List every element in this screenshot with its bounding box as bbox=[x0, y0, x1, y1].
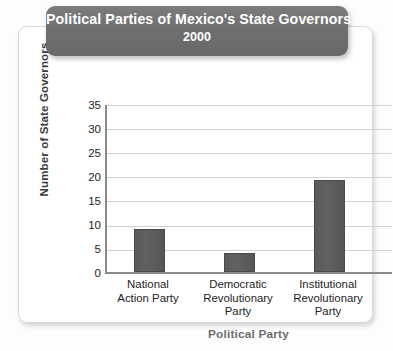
x-tick-line: Institutional bbox=[276, 278, 380, 292]
x-tick-line: Party bbox=[186, 305, 290, 319]
gridline-20 bbox=[107, 177, 392, 178]
x-tick-line: Party bbox=[276, 305, 380, 319]
bar-institutional-revolutionary-party bbox=[314, 180, 345, 272]
chart-card: Number of State Governors 35 30 25 20 15… bbox=[18, 26, 373, 323]
y-tick-20: 20 bbox=[88, 171, 101, 183]
y-axis-title: Number of State Governors bbox=[37, 30, 50, 210]
x-tick-national-action-party: National Action Party bbox=[96, 278, 200, 305]
gridline-10 bbox=[107, 226, 392, 227]
gridline-30 bbox=[107, 129, 392, 130]
y-tick-10: 10 bbox=[88, 219, 101, 231]
x-tick-line: Democratic bbox=[186, 278, 290, 292]
plot-area bbox=[105, 105, 392, 274]
x-tick-line: Revolutionary bbox=[186, 292, 290, 306]
x-tick-line: National bbox=[96, 278, 200, 292]
x-axis-tick-labels: National Action Party Democratic Revolut… bbox=[105, 278, 392, 326]
gridline-15 bbox=[107, 201, 392, 202]
gridline-25 bbox=[107, 153, 392, 154]
x-tick-institutional-revolutionary-party: Institutional Revolutionary Party bbox=[276, 278, 380, 319]
y-axis-tick-labels: 35 30 25 20 15 10 5 0 bbox=[75, 97, 101, 282]
y-tick-5: 5 bbox=[95, 243, 101, 255]
chart-title-banner: Political Parties of Mexico's State Gove… bbox=[46, 6, 348, 56]
x-tick-line: Action Party bbox=[96, 292, 200, 306]
bar-democratic-revolutionary-party bbox=[224, 253, 255, 272]
chart-subtitle: 2000 bbox=[46, 29, 348, 46]
chart-title: Political Parties of Mexico's State Gove… bbox=[46, 10, 348, 29]
bar-national-action-party bbox=[134, 229, 165, 272]
y-tick-25: 25 bbox=[88, 147, 101, 159]
x-tick-line: Revolutionary bbox=[276, 292, 380, 306]
x-axis-title: Political Party bbox=[105, 327, 392, 341]
y-tick-30: 30 bbox=[88, 123, 101, 135]
x-tick-democratic-revolutionary-party: Democratic Revolutionary Party bbox=[186, 278, 290, 319]
y-tick-35: 35 bbox=[88, 99, 101, 111]
y-tick-15: 15 bbox=[88, 195, 101, 207]
gridline-35 bbox=[107, 105, 392, 106]
